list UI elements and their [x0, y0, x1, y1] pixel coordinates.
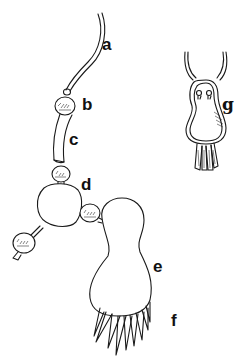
label-e: e — [153, 258, 162, 275]
label-f: f — [171, 312, 177, 329]
label-b: b — [82, 96, 92, 113]
label-a: a — [102, 36, 111, 53]
structure-g-organism — [185, 52, 227, 170]
structure-b-bead — [55, 97, 75, 115]
small-bead-upper — [52, 166, 70, 186]
label-g: g — [222, 96, 234, 113]
structure-a-stalk — [64, 13, 105, 95]
label-d: d — [81, 176, 91, 193]
label-c: c — [69, 131, 78, 148]
diagram-drawing — [0, 0, 243, 362]
structure-d-body — [13, 184, 103, 260]
